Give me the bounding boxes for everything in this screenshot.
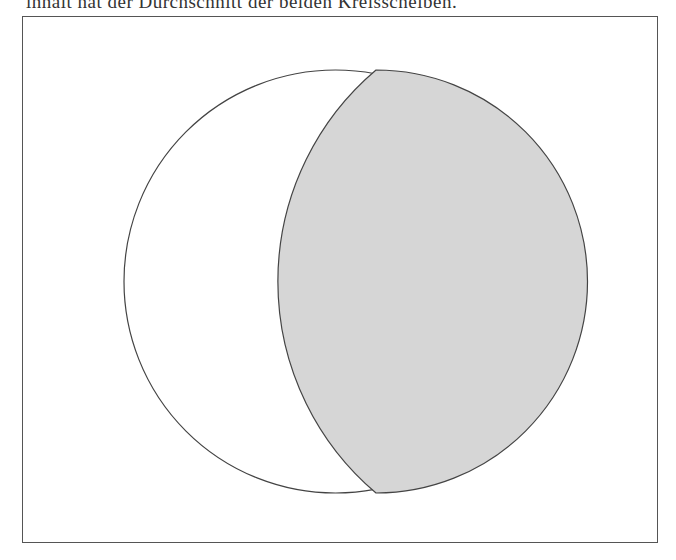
circle-intersection-diagram xyxy=(0,0,676,560)
intersection-lens xyxy=(278,70,588,493)
